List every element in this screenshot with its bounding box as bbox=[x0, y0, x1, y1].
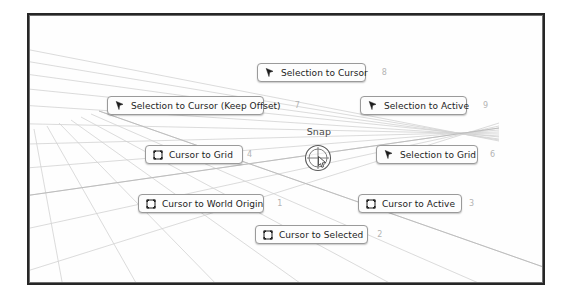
pie-item-shortcut: 8 bbox=[382, 67, 387, 79]
pie-item-label: Cursor to Active bbox=[382, 198, 455, 210]
pie-item-shortcut: 9 bbox=[483, 100, 488, 112]
pie-item-label: Selection to Cursor (Keep Offset) bbox=[131, 100, 281, 112]
screenshot-root: Snap Selection to Cursor 8 Selection to … bbox=[0, 0, 572, 304]
pie-item-cursor-to-world-origin[interactable]: Cursor to World Origin 1 bbox=[138, 194, 264, 213]
pie-item-label: Selection to Cursor bbox=[281, 67, 368, 79]
pie-item-shortcut: 4 bbox=[247, 149, 252, 161]
pie-item-selection-to-grid[interactable]: Selection to Grid 6 bbox=[376, 145, 478, 164]
pie-item-shortcut: 1 bbox=[277, 198, 282, 210]
pie-item-shortcut: 2 bbox=[377, 229, 382, 241]
cursor-3d-icon bbox=[365, 198, 377, 210]
pie-item-label: Cursor to Selected bbox=[279, 229, 363, 241]
pie-item-selection-to-cursor[interactable]: Selection to Cursor 8 bbox=[257, 63, 366, 82]
cursor-3d-icon bbox=[152, 149, 164, 161]
selection-arrow-icon bbox=[114, 100, 126, 112]
pie-item-label: Cursor to Grid bbox=[169, 149, 233, 161]
pie-item-label: Selection to Grid bbox=[400, 149, 476, 161]
pie-item-label: Selection to Active bbox=[384, 100, 469, 112]
pie-item-cursor-to-selected[interactable]: Cursor to Selected 2 bbox=[255, 225, 368, 244]
selection-arrow-icon bbox=[367, 100, 379, 112]
pie-item-selection-to-cursor-keep-offset[interactable]: Selection to Cursor (Keep Offset) 7 bbox=[107, 96, 264, 115]
pie-item-shortcut: 3 bbox=[469, 198, 474, 210]
pie-item-shortcut: 6 bbox=[490, 149, 495, 161]
pie-item-label: Cursor to World Origin bbox=[162, 198, 263, 210]
pie-item-cursor-to-active[interactable]: Cursor to Active 3 bbox=[358, 194, 462, 213]
selection-arrow-icon bbox=[264, 67, 276, 79]
pie-item-shortcut: 7 bbox=[295, 100, 300, 112]
pie-item-selection-to-active[interactable]: Selection to Active 9 bbox=[360, 96, 467, 115]
selection-arrow-icon bbox=[383, 149, 395, 161]
pie-item-cursor-to-grid[interactable]: Cursor to Grid 4 bbox=[145, 145, 243, 164]
3d-viewport[interactable]: Snap Selection to Cursor 8 Selection to … bbox=[27, 13, 545, 285]
cursor-3d-icon bbox=[145, 198, 157, 210]
cursor-3d-icon bbox=[262, 229, 274, 241]
